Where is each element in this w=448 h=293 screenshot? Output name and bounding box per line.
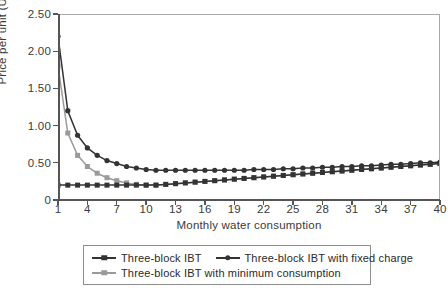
x-tick-mark: [322, 200, 323, 205]
y-tick-mark: [53, 88, 58, 89]
y-tick-label: 1.00: [5, 120, 51, 132]
legend-item-fixed-charge[interactable]: Three-block IBT with fixed charge: [216, 252, 414, 264]
x-tick-mark: [175, 200, 176, 205]
legend-row: Three-block IBT with minimum consumption: [92, 265, 364, 280]
legend-label: Three-block IBT: [121, 252, 202, 264]
y-tick-label: 1.50: [5, 82, 51, 94]
legend-marker-circle-dark-icon: [216, 252, 240, 263]
y-tick-label: 0: [5, 194, 51, 206]
chart-legend: Three-block IBT Three-block IBT with fix…: [83, 245, 371, 285]
x-tick-mark: [381, 200, 382, 205]
y-tick-mark: [53, 51, 58, 52]
legend-marker-square-gray-icon: [92, 267, 116, 278]
plot-area: [58, 14, 440, 200]
x-axis-title: Monthly water consumption: [58, 219, 440, 231]
legend-marker-square-dark-icon: [92, 252, 116, 263]
legend-label: Three-block IBT with fixed charge: [245, 252, 414, 264]
x-tick-mark: [263, 200, 264, 205]
y-axis-line: [58, 14, 60, 200]
x-tick-mark: [234, 200, 235, 205]
x-tick-mark: [204, 200, 205, 205]
legend-item-minimum-consumption[interactable]: Three-block IBT with minimum consumption: [92, 267, 341, 279]
x-tick-mark: [292, 200, 293, 205]
y-tick-label: 2.50: [5, 8, 51, 20]
chart-figure: 00.501.001.502.002.50 147101316192225283…: [0, 0, 448, 293]
y-tick-label: 0.50: [5, 157, 51, 169]
legend-label: Three-block IBT with minimum consumption: [121, 267, 341, 279]
legend-item-three-block-ibt[interactable]: Three-block IBT: [92, 252, 202, 264]
y-tick-mark: [53, 125, 58, 126]
plot-frame: [58, 14, 440, 200]
x-tick-mark: [116, 200, 117, 205]
y-axis-title: Price per unit (US$): [0, 0, 8, 107]
y-tick-mark: [53, 162, 58, 163]
y-tick-mark: [53, 13, 58, 14]
x-tick-mark: [410, 200, 411, 205]
x-tick-mark: [57, 200, 58, 205]
x-tick-mark: [351, 200, 352, 205]
x-tick-mark: [87, 200, 88, 205]
x-tick-mark: [439, 200, 440, 205]
y-tick-label: 2.00: [5, 45, 51, 57]
legend-row: Three-block IBT Three-block IBT with fix…: [92, 250, 364, 265]
x-tick-mark: [145, 200, 146, 205]
